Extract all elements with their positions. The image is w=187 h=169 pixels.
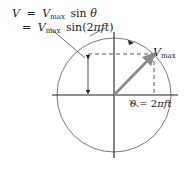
angle-label: θ = 2πft <box>130 98 172 109</box>
vmax-vector <box>114 57 151 95</box>
phasor-diagram: V = Vmax sin θ = Vmax sin(2πft) Vmax θ =… <box>0 0 187 169</box>
equation-line-1: V = Vmax sin θ <box>12 7 97 22</box>
vmax-label: Vmax <box>153 46 176 60</box>
equation-line-2: = Vmax sin(2πft) <box>22 21 114 36</box>
